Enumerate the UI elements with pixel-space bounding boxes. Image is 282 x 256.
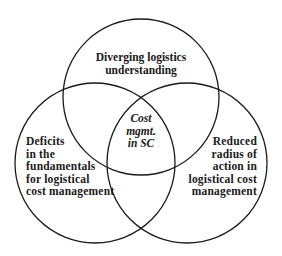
label-line: radius of (189, 148, 257, 161)
label-line: cost management (26, 185, 114, 198)
label-line: Reduced (189, 135, 257, 148)
label-line: mgmt. (111, 125, 171, 138)
label-line: for logistical (26, 173, 114, 186)
label-line: in SC (111, 137, 171, 150)
top-circle-label: Diverging logistics understanding (80, 51, 202, 76)
center-intersection-label: Cost mgmt. in SC (111, 112, 171, 150)
label-line: Cost (111, 112, 171, 125)
label-line: logistical cost (189, 173, 257, 186)
label-line: action in (189, 160, 257, 173)
label-line: understanding (80, 64, 202, 77)
right-circle-label: Reduced radius of action in logistical c… (189, 135, 257, 198)
label-line: fundamentals (26, 160, 114, 173)
label-line: in the (26, 148, 114, 161)
label-line: Diverging logistics (80, 51, 202, 64)
left-circle-label: Deficits in the fundamentals for logisti… (26, 135, 114, 198)
label-line: management (189, 185, 257, 198)
label-line: Deficits (26, 135, 114, 148)
